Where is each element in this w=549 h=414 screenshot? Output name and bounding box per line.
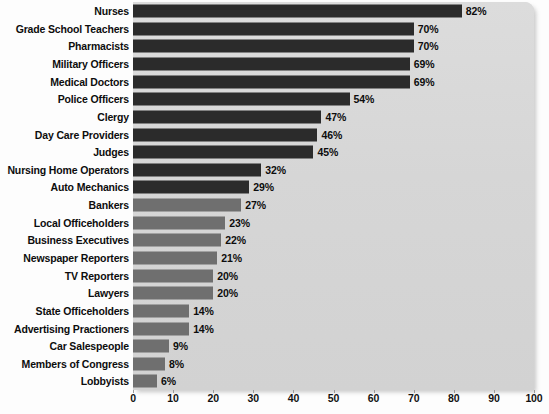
category-label: Newspaper Reporters <box>23 253 129 264</box>
bar-value-label: 69% <box>414 76 435 87</box>
category-label: Clergy <box>97 112 129 123</box>
category-label: Members of Congress <box>22 359 129 370</box>
category-label: Nurses <box>94 6 129 17</box>
bar-value-label: 22% <box>225 235 246 246</box>
category-label: Police Officers <box>58 94 129 105</box>
category-label: Business Executives <box>27 235 129 246</box>
bar-value-label: 47% <box>325 112 346 123</box>
bar-value-label: 45% <box>317 147 338 158</box>
bar-value-label: 6% <box>161 376 176 387</box>
bar-row: Local Officeholders23% <box>0 214 549 232</box>
x-tick-label: 40 <box>288 393 299 404</box>
x-tick-label: 70 <box>408 393 419 404</box>
bar <box>133 199 241 212</box>
bar-row: Advertising Practioners14% <box>0 319 549 337</box>
bar <box>133 75 410 88</box>
category-label: Auto Mechanics <box>51 182 129 193</box>
category-label: Car Salespeople <box>50 341 129 352</box>
bar-value-label: 70% <box>418 23 439 34</box>
bar <box>133 5 462 18</box>
bar <box>133 234 221 247</box>
bar <box>133 22 414 35</box>
bar-row: Lawyers20% <box>0 284 549 302</box>
bar-row: TV Reporters20% <box>0 267 549 285</box>
category-label: Advertising Practioners <box>14 323 129 334</box>
bar-value-label: 32% <box>265 165 286 176</box>
bar-row: Newspaper Reporters21% <box>0 249 549 267</box>
bar-value-label: 23% <box>229 217 250 228</box>
x-tick-label: 80 <box>448 393 459 404</box>
category-label: TV Reporters <box>65 270 129 281</box>
x-tick-label: 90 <box>488 393 499 404</box>
bar-value-label: 9% <box>173 341 188 352</box>
bar-row: State Officeholders14% <box>0 302 549 320</box>
bar-row: Police Officers54% <box>0 90 549 108</box>
bar-row: Auto Mechanics29% <box>0 178 549 196</box>
bar-value-label: 70% <box>418 41 439 52</box>
bar <box>133 146 313 159</box>
bar <box>133 128 317 141</box>
bar <box>133 40 414 53</box>
x-tick-label: 20 <box>207 393 218 404</box>
category-label: Local Officeholders <box>34 217 129 228</box>
bar-row: Clergy47% <box>0 108 549 126</box>
category-label: Lawyers <box>88 288 129 299</box>
bar-row: Pharmacists70% <box>0 37 549 55</box>
bar <box>133 322 189 335</box>
category-label: Medical Doctors <box>50 76 129 87</box>
category-label: State Officeholders <box>36 306 129 317</box>
bar-value-label: 8% <box>169 359 184 370</box>
bar-value-label: 27% <box>245 200 266 211</box>
bar-chart: Nurses82%Grade School Teachers70%Pharmac… <box>0 0 549 414</box>
bar-row: Lobbyists6% <box>0 372 549 390</box>
bar <box>133 216 225 229</box>
category-label: Bankers <box>89 200 129 211</box>
x-tick-label: 50 <box>328 393 339 404</box>
bar <box>133 287 213 300</box>
bar-value-label: 20% <box>217 288 238 299</box>
bar-value-label: 14% <box>193 323 214 334</box>
bar <box>133 252 217 265</box>
bar <box>133 110 321 123</box>
category-label: Day Care Providers <box>35 129 129 140</box>
bar <box>133 269 213 282</box>
x-tick-label: 30 <box>248 393 259 404</box>
x-axis: 0102030405060708090100 <box>133 390 534 412</box>
bar-row: Bankers27% <box>0 196 549 214</box>
x-tick-label: 10 <box>167 393 178 404</box>
bar-rows: Nurses82%Grade School Teachers70%Pharmac… <box>0 2 549 390</box>
bar-row: Military Officers69% <box>0 55 549 73</box>
bar-row: Business Executives22% <box>0 231 549 249</box>
bar-value-label: 29% <box>253 182 274 193</box>
bar-value-label: 20% <box>217 270 238 281</box>
category-label: Military Officers <box>52 59 129 70</box>
bar-row: Grade School Teachers70% <box>0 20 549 38</box>
category-label: Lobbyists <box>81 376 129 387</box>
bar <box>133 340 169 353</box>
bar-row: Medical Doctors69% <box>0 73 549 91</box>
category-label: Nursing Home Operators <box>7 165 129 176</box>
bar <box>133 93 350 106</box>
bar-row: Members of Congress8% <box>0 355 549 373</box>
bar <box>133 58 410 71</box>
bar-value-label: 54% <box>354 94 375 105</box>
bar-value-label: 14% <box>193 306 214 317</box>
x-tick-label: 0 <box>130 393 136 404</box>
bar <box>133 357 165 370</box>
bar-value-label: 21% <box>221 253 242 264</box>
bar-row: Nursing Home Operators32% <box>0 161 549 179</box>
bar-row: Nurses82% <box>0 2 549 20</box>
bar <box>133 181 249 194</box>
bar-row: Car Salespeople9% <box>0 337 549 355</box>
category-label: Judges <box>93 147 129 158</box>
bar <box>133 304 189 317</box>
bar <box>133 163 261 176</box>
bar-value-label: 82% <box>466 6 487 17</box>
x-tick-label: 100 <box>525 393 542 404</box>
bar-value-label: 46% <box>321 129 342 140</box>
bar-value-label: 69% <box>414 59 435 70</box>
category-label: Pharmacists <box>68 41 129 52</box>
bar <box>133 375 157 388</box>
bar-row: Judges45% <box>0 143 549 161</box>
x-tick-label: 60 <box>368 393 379 404</box>
